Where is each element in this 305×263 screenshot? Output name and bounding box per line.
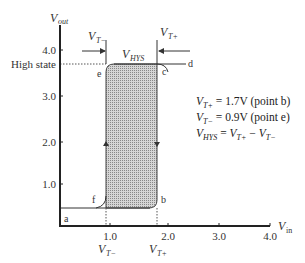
y-tick: 4.0 [42, 44, 56, 56]
high-state-label: High state [11, 58, 56, 70]
svg-text:T−: T− [106, 249, 116, 258]
point-a: a [64, 213, 69, 224]
y-tick: 3.0 [42, 90, 56, 102]
svg-text:T−: T− [96, 36, 106, 45]
point-c: c [162, 66, 167, 77]
svg-text:T+: T+ [157, 249, 167, 258]
svg-text:out: out [58, 17, 69, 26]
point-b: b [161, 194, 166, 205]
point-e: e [97, 68, 102, 79]
point-f: f [92, 194, 96, 205]
x-tick: 2.0 [161, 230, 175, 242]
x-tick: 4.0 [263, 230, 277, 242]
y-tick: 1.0 [42, 178, 56, 190]
y-tick: 2.0 [42, 136, 56, 148]
hysteresis-region [106, 64, 157, 208]
equation-vt-plus: VT+ = 1.7V (point b) [196, 95, 290, 110]
svg-text:T+: T+ [168, 32, 178, 41]
point-d: d [188, 58, 193, 69]
equation-vt-minus: VT− = 0.9V (point e) [196, 111, 290, 126]
x-tick: 1.0 [103, 230, 117, 242]
svg-text:HYS: HYS [129, 54, 144, 63]
equation-vhys: VHYS = VT+ − VT− [196, 127, 276, 142]
svg-text:in: in [286, 226, 292, 235]
x-tick: 3.0 [212, 230, 226, 242]
